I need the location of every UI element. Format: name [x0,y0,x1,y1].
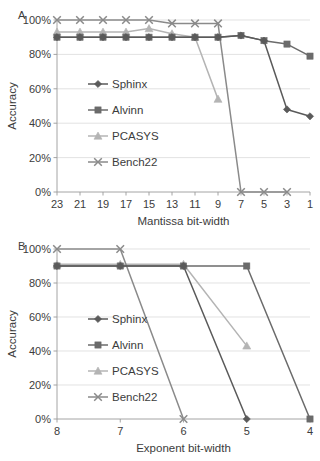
y-axis-title: Accuracy [6,82,18,130]
x-tick-label: 9 [215,198,221,210]
x-tick-label: 7 [117,425,123,437]
x-axis-title: Mantissa bit-width [137,215,229,227]
y-tick-label: 80% [29,48,51,60]
x-tick-label: 8 [54,425,60,437]
x-tick-label: 23 [51,198,63,210]
x-tick-label: 15 [143,198,155,210]
series-bench22 [53,16,291,196]
legend-label-bench22: Bench22 [112,391,157,403]
x-tick-label: 6 [180,425,186,437]
x-tick-label: 11 [189,198,200,210]
legend-label-alvinn: Alvinn [112,104,143,116]
chart-a-plot: 0%20%40%60%80%100%2321191715131197531Man… [0,0,320,231]
legend-label-pcasys: PCASYS [112,130,159,142]
y-tick-label: 20% [29,379,51,391]
series-alvinn [54,32,313,59]
x-axis-title: Exponent bit-width [136,442,231,454]
series-alvinn [54,263,313,422]
y-tick-label: 100% [23,243,51,255]
x-tick-label: 19 [97,198,109,210]
y-tick-label: 0% [35,186,51,198]
y-axis-title: Accuracy [6,310,18,358]
y-tick-label: 40% [29,345,51,357]
x-tick-label: 4 [307,425,313,437]
x-tick-label: 7 [238,198,244,210]
legend-label-alvinn: Alvinn [112,339,143,351]
chart-panel-b: B 0%20%40%60%80%100%87654Exponent bit-wi… [0,231,320,461]
legend-label-sphinx: Sphinx [112,78,147,90]
chart-b-plot: 0%20%40%60%80%100%87654Exponent bit-widt… [0,231,320,461]
y-tick-label: 40% [29,117,51,129]
x-tick-label: 21 [74,198,86,210]
legend-label-pcasys: PCASYS [112,365,159,377]
series-sphinx [53,32,313,120]
y-tick-label: 20% [29,152,51,164]
x-tick-label: 3 [284,198,290,210]
figure-container: A 0%20%40%60%80%100%2321191715131197531M… [0,0,320,461]
y-tick-label: 60% [29,311,51,323]
x-tick-label: 13 [166,198,178,210]
y-tick-label: 60% [29,83,51,95]
x-tick-label: 17 [120,198,132,210]
chart-legend: SphinxAlvinnPCASYSBench22 [88,313,159,403]
y-tick-label: 100% [23,14,51,26]
x-tick-label: 5 [244,425,250,437]
x-tick-label: 1 [307,198,313,210]
legend-label-bench22: Bench22 [112,156,157,168]
chart-panel-a: A 0%20%40%60%80%100%2321191715131197531M… [0,0,320,231]
y-tick-label: 80% [29,277,51,289]
y-tick-label: 0% [35,413,51,425]
x-tick-label: 5 [261,198,267,210]
legend-label-sphinx: Sphinx [112,313,147,325]
